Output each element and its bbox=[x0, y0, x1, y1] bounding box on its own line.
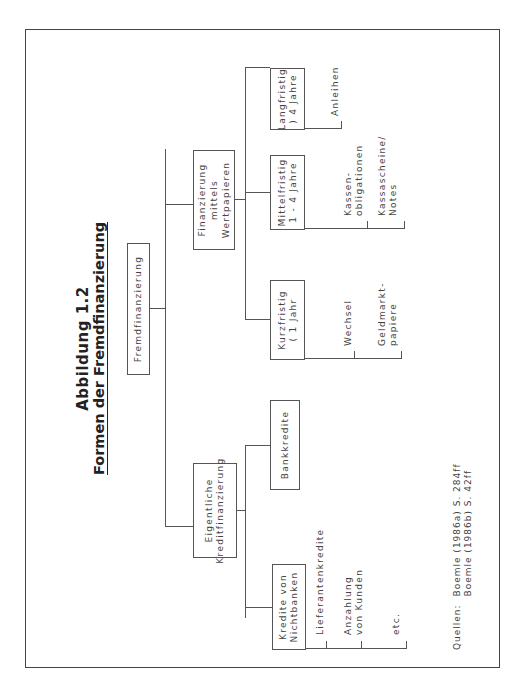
node-mittelfristig: Mittelfristig 1 - 4 Jahre bbox=[270, 155, 305, 230]
leaf-line: obligationen bbox=[354, 144, 365, 216]
node-label-line: Eigentliche bbox=[204, 478, 215, 542]
leaf-line: von Kunden bbox=[354, 569, 365, 635]
leaf-kassascheine-notes: Kassascheine/ Notes bbox=[377, 135, 399, 216]
connector bbox=[245, 445, 270, 446]
node-label: Bankkredite bbox=[280, 411, 291, 479]
connector bbox=[150, 308, 165, 309]
leaf-line: Kassen- bbox=[343, 144, 354, 216]
leaf-etc: etc. bbox=[391, 613, 402, 635]
leaf-lieferantenkredite: Lieferantenkredite bbox=[315, 529, 326, 635]
node-label-line: ) 4 Jahre bbox=[288, 74, 299, 124]
node-label-line: Mittelfristig bbox=[277, 158, 288, 226]
leaf-anleihen: Anleihen bbox=[330, 66, 341, 116]
connector bbox=[237, 510, 245, 511]
leaf-line: Lieferantenkredite bbox=[315, 529, 325, 635]
connector bbox=[367, 221, 368, 229]
source-note: Quellen: Boemle (1986a) S. 284ff Boemle … bbox=[452, 463, 474, 650]
node-label-line: Wertpapieren bbox=[220, 162, 232, 238]
node-label-line: Langfristig bbox=[277, 68, 288, 130]
connector bbox=[165, 149, 166, 527]
connector bbox=[401, 351, 402, 359]
node-fremdfinanzierung: Fremdfinanzierung bbox=[127, 243, 150, 375]
connector bbox=[326, 641, 327, 649]
connector bbox=[305, 228, 404, 229]
node-kurzfristig: Kurzfristig ( 1 Jahr bbox=[270, 280, 305, 360]
node-label-line: ( 1 Jahr bbox=[288, 299, 299, 342]
source-refs: Boemle (1986a) S. 284ff Boemle (1986b) S… bbox=[452, 463, 474, 596]
connector bbox=[245, 68, 246, 320]
connector bbox=[245, 67, 270, 68]
node-langfristig: Langfristig ) 4 Jahre bbox=[270, 68, 305, 130]
figure-label: Abbildung 1.2 bbox=[74, 29, 92, 668]
leaf-line: Anzahlung bbox=[343, 569, 354, 635]
connector bbox=[404, 221, 405, 229]
source-ref: Boemle (1986b) S. 42ff bbox=[463, 463, 474, 596]
node-label-line: Kurzfristig bbox=[277, 290, 288, 350]
leaf-line: Anleihen bbox=[330, 66, 340, 116]
node-kredite-von-nichtbanken: Kredite von Nichtbanken bbox=[272, 564, 306, 650]
figure-title-text: Formen der Fremdfinanzierung bbox=[91, 222, 108, 475]
connector bbox=[306, 648, 406, 649]
leaf-anzahlung-von-kunden: Anzahlung von Kunden bbox=[343, 569, 365, 635]
connector bbox=[361, 641, 362, 649]
source-label: Quellen: bbox=[452, 604, 463, 650]
node-label: Fremdfinanzierung bbox=[133, 256, 144, 362]
connector bbox=[305, 128, 341, 129]
node-label-line: Nichtbanken bbox=[289, 572, 300, 643]
connector bbox=[235, 199, 245, 200]
connector bbox=[245, 446, 246, 618]
diagram-canvas: Abbildung 1.2 Formen der Fremdfinanzieru… bbox=[25, 29, 500, 668]
connector bbox=[165, 204, 193, 205]
leaf-line: Notes bbox=[388, 135, 399, 216]
connector bbox=[165, 526, 193, 527]
leaf-line: Kassascheine/ bbox=[377, 135, 388, 216]
leaf-line: Geldmarkt- bbox=[377, 282, 388, 346]
leaf-line: etc. bbox=[391, 613, 401, 635]
leaf-kassenobligationen: Kassen- obligationen bbox=[343, 144, 365, 216]
node-eigentliche-kreditfinanzierung: Eigentliche Kreditfinanzierung bbox=[193, 463, 237, 558]
node-label-line: Kredite von bbox=[278, 574, 289, 640]
connector bbox=[406, 641, 407, 649]
connector bbox=[245, 319, 270, 320]
connector bbox=[245, 607, 272, 608]
leaf-line: Wechsel bbox=[343, 300, 353, 346]
node-finanzierung-mittels-wertpapieren: Finanzierung mittels Wertpapieren bbox=[193, 150, 235, 250]
connector bbox=[305, 358, 401, 359]
node-label-line: 1 - 4 Jahre bbox=[288, 162, 299, 223]
node-label-line: Kreditfinanzierung bbox=[215, 457, 226, 563]
node-bankkredite: Bankkredite bbox=[270, 400, 300, 490]
connector bbox=[341, 121, 342, 129]
node-label-line: Finanzierung bbox=[196, 163, 208, 236]
leaf-wechsel: Wechsel bbox=[343, 300, 354, 346]
leaf-geldmarktpapiere: Geldmarkt- papiere bbox=[377, 282, 399, 346]
leaf-line: papiere bbox=[388, 282, 399, 346]
connector bbox=[245, 192, 270, 193]
node-label-line: mittels bbox=[208, 180, 220, 220]
connector bbox=[354, 351, 355, 359]
figure-title: Formen der Fremdfinanzierung bbox=[91, 29, 107, 668]
source-ref: Boemle (1986a) S. 284ff bbox=[452, 463, 463, 596]
